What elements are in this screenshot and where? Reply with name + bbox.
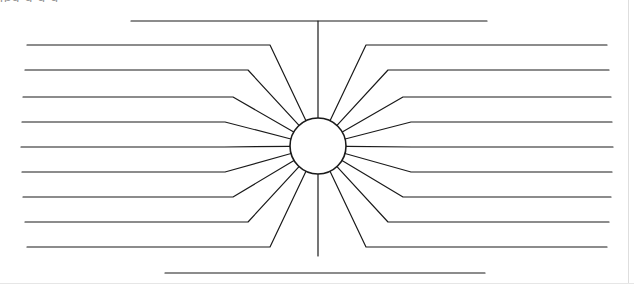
spoke-right-1[interactable] — [330, 45, 607, 121]
right-spokes-group — [330, 45, 613, 247]
spoke-left-1[interactable] — [27, 45, 306, 121]
radial-web-worksheet: jpg g g g — [0, 0, 634, 284]
spoke-right-8[interactable] — [337, 167, 609, 222]
spoke-left-9[interactable] — [27, 171, 306, 247]
spoke-right-9[interactable] — [330, 171, 607, 247]
spoke-right-7[interactable] — [342, 160, 611, 197]
spoke-left-5[interactable] — [21, 146, 290, 147]
spoke-right-5[interactable] — [346, 146, 613, 147]
spoke-left-3[interactable] — [23, 97, 294, 132]
spoke-right-6[interactable] — [345, 154, 612, 172]
spoke-left-8[interactable] — [25, 167, 299, 222]
center-circle[interactable] — [290, 118, 346, 174]
spoke-left-7[interactable] — [23, 160, 294, 197]
spoke-left-6[interactable] — [22, 154, 291, 172]
spoke-left-2[interactable] — [25, 70, 299, 125]
left-spokes-group — [21, 45, 306, 247]
spoke-right-2[interactable] — [337, 70, 609, 125]
spoke-right-4[interactable] — [345, 122, 612, 139]
spoke-left-4[interactable] — [22, 122, 291, 139]
spoke-right-3[interactable] — [342, 97, 611, 132]
radial-web-diagram — [0, 0, 634, 284]
